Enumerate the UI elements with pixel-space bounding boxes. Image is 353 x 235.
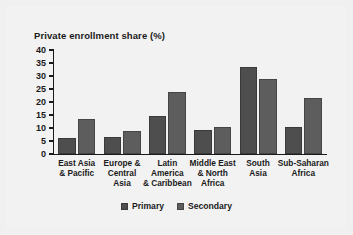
y-axis-tick-label: 5 xyxy=(28,137,46,146)
chart-title: Private enrollment share (%) xyxy=(34,30,165,41)
bar-secondary-1 xyxy=(123,131,141,154)
x-axis-label-5: Sub-Saharan Africa xyxy=(275,158,332,178)
y-axis-tick-label: 25 xyxy=(28,85,46,94)
y-axis-tick-label: 35 xyxy=(28,59,46,68)
bar-primary-1 xyxy=(104,137,122,154)
y-axis-tick-label: 20 xyxy=(28,98,46,107)
legend-label: Secondary xyxy=(188,202,232,211)
bar-secondary-4 xyxy=(259,79,277,154)
bar-primary-3 xyxy=(194,130,212,154)
y-axis-tick-label: 10 xyxy=(28,124,46,133)
bar-secondary-3 xyxy=(214,127,232,154)
bar-primary-0 xyxy=(58,138,76,154)
legend-swatch-icon xyxy=(177,203,184,210)
legend-item-primary: Primary xyxy=(121,202,164,211)
bar-secondary-0 xyxy=(78,119,96,154)
y-axis-tick-label: 0 xyxy=(28,150,46,159)
plot-area xyxy=(54,50,326,154)
bar-secondary-2 xyxy=(168,92,186,154)
bar-primary-4 xyxy=(240,67,258,154)
chart-legend: PrimarySecondary xyxy=(6,202,347,211)
legend-swatch-icon xyxy=(121,203,128,210)
y-axis-tick-label: 40 xyxy=(28,46,46,55)
x-axis-line xyxy=(53,154,327,155)
legend-item-secondary: Secondary xyxy=(177,202,232,211)
bar-secondary-5 xyxy=(304,98,322,154)
bar-primary-5 xyxy=(285,127,303,154)
legend-label: Primary xyxy=(132,202,164,211)
y-axis-tick-label: 15 xyxy=(28,111,46,120)
y-axis-tick-label: 30 xyxy=(28,72,46,81)
chart-figure: Private enrollment share (%) 05101520253… xyxy=(0,0,353,235)
chart-plate: Private enrollment share (%) 05101520253… xyxy=(6,6,347,229)
bar-primary-2 xyxy=(149,116,167,154)
